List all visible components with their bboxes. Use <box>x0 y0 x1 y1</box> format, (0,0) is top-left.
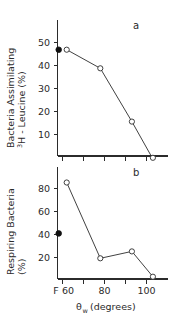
panel-a-label: a <box>133 20 139 31</box>
panel-b: 80 60 40 20 F 60 80 100 <box>38 167 168 296</box>
panel-a-open-markers <box>64 47 155 160</box>
panel-b-ytick-40: 40 <box>38 229 50 240</box>
panel-b-ylabel-line2: (%) <box>16 259 27 275</box>
panel-a-ytick-40: 40 <box>38 60 50 71</box>
panel-a-y-axis-title: Bacteria Assimilating 3 H - Leucine (%) <box>5 48 27 148</box>
panel-a-ytick-10: 10 <box>38 129 50 140</box>
panel-a-filled-reference-point <box>56 47 62 53</box>
figure-container: 50 40 30 20 10 <box>0 0 173 316</box>
panel-b-xtick-F: F <box>53 285 58 296</box>
panel-b-y-axis-title: Respiring Bacteria (%) <box>5 188 27 275</box>
panel-b-xtick-100: 100 <box>137 285 155 296</box>
panel-a-ylabel-line2: H - Leucine (%) <box>16 71 27 144</box>
panel-b-open-markers <box>64 180 155 279</box>
panel-b-xtick-80: 80 <box>98 285 110 296</box>
panel-b-x-ticks <box>63 279 147 284</box>
panel-a-ytick-50: 50 <box>38 37 50 48</box>
panel-a-ytick-30: 30 <box>38 83 50 94</box>
panel-b-ytick-80: 80 <box>38 183 50 194</box>
panel-b-point-2 <box>98 256 103 261</box>
panel-b-ytick-60: 60 <box>38 206 50 217</box>
panel-a-y-ticks <box>54 43 58 135</box>
panel-b-point-1 <box>64 180 69 185</box>
panel-b-ylabel-line1: Respiring Bacteria <box>5 188 16 275</box>
panel-a-ylabel-line2-group: 3 H - Leucine (%) <box>16 71 28 148</box>
panel-b-point-3 <box>129 249 134 254</box>
panel-b-data-line <box>67 183 153 277</box>
panel-b-y-ticks <box>54 189 58 258</box>
panel-b-filled-reference-point <box>56 231 62 237</box>
panel-b-xtick-60: 60 <box>62 285 74 296</box>
x-axis-units: (degrees) <box>90 301 136 312</box>
panel-b-ytick-20: 20 <box>38 252 50 263</box>
panel-b-label: b <box>133 167 139 178</box>
panel-b-point-4 <box>150 274 155 279</box>
panel-a-point-4 <box>150 155 155 160</box>
x-axis-theta-symbol: θ <box>76 301 82 312</box>
x-axis-title: θ w (degrees) <box>76 301 136 315</box>
x-axis-theta-subscript: w <box>83 307 89 315</box>
panel-a-point-2 <box>98 66 103 71</box>
panel-a-point-3 <box>129 119 134 124</box>
panel-a-x-ticks <box>63 156 147 161</box>
panel-a-data-line <box>67 50 153 159</box>
panel-a: 50 40 30 20 10 <box>38 20 168 161</box>
panel-a-point-1 <box>64 47 69 52</box>
panel-a-ylabel-line1: Bacteria Assimilating <box>5 48 16 148</box>
panel-a-ytick-20: 20 <box>38 106 50 117</box>
two-panel-line-chart: 50 40 30 20 10 <box>0 0 173 316</box>
